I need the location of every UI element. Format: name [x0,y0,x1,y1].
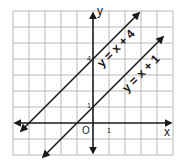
y-axis-label: y [97,4,103,18]
x-axis-label: x [164,125,170,139]
coordinate-graph: y x O 1 1 4 y = x + 4 y = x + 1 [0,0,187,165]
x-tick-label-1: 1 [107,127,111,134]
y-tick-label-1: 1 [87,102,91,109]
equation-label-line-1: y = x + 4 [94,26,138,70]
line-y-eq-x-plus-4 [21,13,139,131]
y-tick-label-4: 4 [87,55,91,62]
origin-label: O [82,125,90,136]
